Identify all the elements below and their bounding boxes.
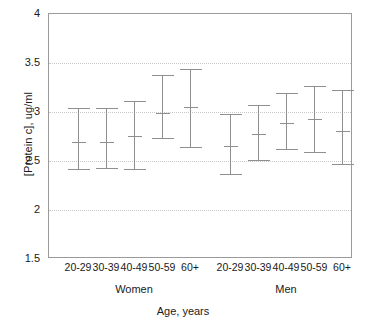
y-tick-label: 2 xyxy=(12,203,44,215)
error-bar-upper-cap xyxy=(68,108,90,109)
mean-marker xyxy=(308,119,322,120)
x-tick-label: 20-29 xyxy=(217,261,244,273)
error-bar-upper-cap xyxy=(220,114,242,115)
error-bar-upper-cap xyxy=(332,90,354,91)
y-tick-label: 3 xyxy=(12,105,44,117)
error-bar-stem xyxy=(230,114,231,174)
x-axis-tick-labels: 20-2930-3940-4950-5960+20-2930-3940-4950… xyxy=(0,261,366,277)
error-bar xyxy=(152,14,174,259)
error-bar xyxy=(124,14,146,259)
x-tick-label: 50-59 xyxy=(149,261,176,273)
error-bar xyxy=(96,14,118,259)
mean-marker xyxy=(280,123,294,124)
error-bar-upper-cap xyxy=(248,105,270,106)
x-tick-label: 40-49 xyxy=(273,261,300,273)
error-bar-stem xyxy=(106,108,107,168)
mean-marker xyxy=(224,146,238,147)
error-bar xyxy=(304,14,326,259)
error-bar-upper-cap xyxy=(96,108,118,109)
mean-marker xyxy=(184,107,198,108)
error-bar-lower-cap xyxy=(180,147,202,148)
error-bar-lower-cap xyxy=(152,138,174,139)
x-tick-label: 40-49 xyxy=(121,261,148,273)
mean-marker xyxy=(100,142,114,143)
error-bar-upper-cap xyxy=(152,75,174,76)
y-tick-label: 2.5 xyxy=(12,154,44,166)
y-tick-label: 3.5 xyxy=(12,56,44,68)
y-axis-tick-labels: 1.522.533.54 xyxy=(12,0,44,326)
x-tick-label: 60+ xyxy=(333,261,351,273)
y-tick-label: 4 xyxy=(12,7,44,19)
error-bar xyxy=(68,14,90,259)
error-bar xyxy=(276,14,298,259)
group-label: Men xyxy=(275,283,296,295)
group-labels: WomenMen xyxy=(0,283,366,299)
x-tick-label: 20-29 xyxy=(65,261,92,273)
mean-marker xyxy=(252,134,266,135)
error-bar-stem xyxy=(286,93,287,149)
error-bar-lower-cap xyxy=(96,168,118,169)
x-axis-label: Age, years xyxy=(0,305,366,317)
mean-marker xyxy=(336,131,350,132)
mean-marker xyxy=(72,142,86,143)
x-tick-label: 60+ xyxy=(181,261,199,273)
error-bar-upper-cap xyxy=(304,86,326,87)
mean-marker xyxy=(156,113,170,114)
error-bar-upper-cap xyxy=(276,93,298,94)
error-bar-lower-cap xyxy=(304,152,326,153)
error-bar-upper-cap xyxy=(124,101,146,102)
error-bar-stem xyxy=(78,108,79,169)
error-bar-lower-cap xyxy=(220,174,242,175)
x-tick-label: 30-39 xyxy=(93,261,120,273)
error-bar-lower-cap xyxy=(248,160,270,161)
error-bar xyxy=(180,14,202,259)
error-bar xyxy=(248,14,270,259)
group-label: Women xyxy=(115,283,153,295)
error-bar xyxy=(220,14,242,259)
error-bar-upper-cap xyxy=(180,69,202,70)
error-bar-lower-cap xyxy=(276,149,298,150)
plot-area xyxy=(48,13,352,258)
mean-marker xyxy=(128,136,142,137)
error-bar-stem xyxy=(162,75,163,139)
chart-figure: [Protein c], ug/ml 1.522.533.54 20-2930-… xyxy=(0,0,366,326)
error-bar-lower-cap xyxy=(68,169,90,170)
x-tick-label: 30-39 xyxy=(245,261,272,273)
error-bar-lower-cap xyxy=(332,164,354,165)
error-bar-stem xyxy=(342,90,343,164)
x-tick-label: 50-59 xyxy=(301,261,328,273)
error-bar-lower-cap xyxy=(124,169,146,170)
error-bar xyxy=(332,14,354,259)
